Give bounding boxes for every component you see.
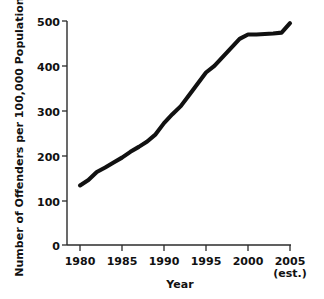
y-axis-title: Number of Offenders per 100,000 Populati… bbox=[13, 0, 26, 277]
y-tick-label-300: 300 bbox=[37, 106, 60, 119]
x-tick-sublabel-2005-est: (est.) bbox=[273, 267, 307, 280]
x-tick-label-1985: 1985 bbox=[107, 255, 138, 268]
x-tick-label-1980: 1980 bbox=[65, 255, 96, 268]
y-tick-label-400: 400 bbox=[37, 61, 60, 74]
data-series-line bbox=[80, 23, 290, 185]
y-tick-label-500: 500 bbox=[37, 16, 60, 29]
y-tick-label-200: 200 bbox=[37, 151, 60, 164]
chart-plot-area: Number of Offenders per 100,000 Populati… bbox=[0, 0, 324, 299]
line-chart-figure: Number of Offenders per 100,000 Populati… bbox=[0, 0, 324, 299]
y-tick-label-100: 100 bbox=[37, 196, 60, 209]
y-tick-label-0: 0 bbox=[52, 240, 60, 253]
x-tick-label-1995: 1995 bbox=[191, 255, 222, 268]
x-tick-label-2000: 2000 bbox=[233, 255, 264, 268]
x-tick-label-1990: 1990 bbox=[149, 255, 180, 268]
x-axis-title: Year bbox=[165, 278, 194, 291]
